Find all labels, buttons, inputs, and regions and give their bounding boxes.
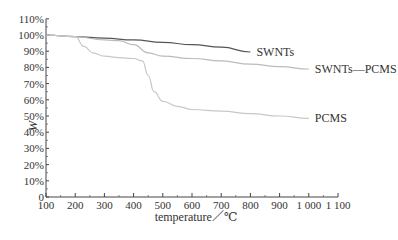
y-tick-label: 50% (24, 110, 44, 122)
y-tick-label: 80% (24, 61, 44, 73)
tga-line-chart: 010%20%30%40%50%60%70%80%90%100%110% 100… (0, 0, 398, 240)
y-tick-label: 90% (24, 45, 44, 57)
x-tick-label: 300 (96, 199, 113, 211)
x-tick-label: 1 100 (326, 199, 351, 211)
x-axis-ticks: 1002003004005006007008009001 0001 100 (38, 193, 351, 211)
y-tick-label: 110% (19, 13, 44, 25)
y-axis-ticks: 010%20%30%40%50%60%70%80%90%100%110% (18, 13, 49, 203)
x-tick-label: 100 (38, 199, 55, 211)
series-label: SWNTs—PCMS (315, 62, 397, 76)
y-tick-label: 100% (18, 29, 44, 41)
series-labels: SWNTsSWNTs—PCMSPCMS (256, 45, 396, 125)
x-axis-label: temperature／℃ (155, 210, 238, 224)
y-tick-label: 70% (24, 78, 44, 90)
x-tick-label: 400 (125, 199, 142, 211)
y-tick-label: 30% (24, 142, 44, 154)
x-tick-label: 900 (271, 199, 288, 211)
series-label: PCMS (315, 111, 347, 125)
y-tick-label: 60% (24, 94, 44, 106)
y-tick-label: 20% (24, 159, 44, 171)
x-tick-label: 800 (242, 199, 259, 211)
x-tick-label: 200 (67, 199, 84, 211)
series-label: SWNTs (256, 45, 294, 59)
y-tick-label: 10% (24, 175, 44, 187)
y-axis-label: W (26, 120, 40, 131)
x-tick-label: 1 000 (296, 199, 321, 211)
